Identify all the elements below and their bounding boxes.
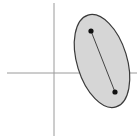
point-a: [88, 28, 93, 33]
diagram-canvas: [0, 0, 137, 139]
confidence-ellipse: [64, 8, 137, 114]
point-b: [112, 89, 117, 94]
